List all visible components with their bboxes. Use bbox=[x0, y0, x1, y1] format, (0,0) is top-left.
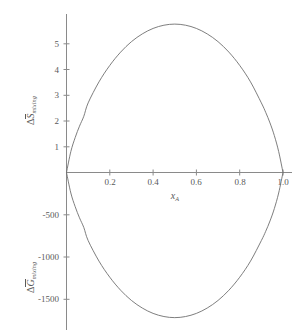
y-tick-label-4: 4 bbox=[48, 66, 59, 75]
y-tick-label-minus500: -500 bbox=[26, 211, 59, 220]
entropy-delta-symbol: Δ bbox=[25, 119, 36, 125]
y-tick-label-5: 5 bbox=[48, 40, 59, 49]
x-axis-subscript: A bbox=[175, 195, 179, 202]
x-axis-title: xA bbox=[171, 191, 179, 202]
y-axis-title-entropy: ΔSmixing bbox=[26, 96, 37, 125]
chart-figure: 0.2 0.4 0.6 0.8 1.0 xA 1 2 3 4 5 -500 -1… bbox=[0, 0, 306, 335]
gibbs-subscript: mixing bbox=[30, 262, 37, 279]
x-tick-label-1.0: 1.0 bbox=[277, 178, 288, 187]
y-tick-label-minus1500: -1500 bbox=[21, 295, 59, 304]
y-tick-label-1: 1 bbox=[48, 143, 59, 152]
y-tick-label-3: 3 bbox=[48, 91, 59, 100]
y-tick-label-minus1000: -1000 bbox=[21, 253, 59, 262]
x-tick-label-0.8: 0.8 bbox=[234, 178, 245, 187]
x-tick-label-0.4: 0.4 bbox=[147, 178, 158, 187]
x-tick-label-0.2: 0.2 bbox=[104, 178, 115, 187]
x-tick-label-0.6: 0.6 bbox=[190, 178, 201, 187]
entropy-of-mixing-curve bbox=[67, 24, 284, 172]
y-tick-label-2: 2 bbox=[48, 117, 59, 126]
gibbs-delta-symbol: Δ bbox=[25, 287, 36, 293]
y-axis-title-gibbs: ΔGmixing bbox=[26, 262, 37, 293]
entropy-subscript: mixing bbox=[30, 96, 37, 113]
plot-canvas bbox=[0, 0, 306, 335]
entropy-symbol-overbar: S bbox=[26, 114, 36, 119]
gibbs-symbol-overbar: G bbox=[26, 279, 36, 286]
